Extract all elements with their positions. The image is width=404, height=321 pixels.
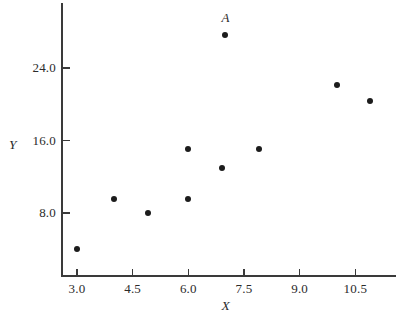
data-point — [145, 210, 151, 216]
x-tick-label: 3.0 — [54, 281, 100, 297]
x-tick-label: 9.0 — [277, 281, 323, 297]
data-point — [219, 165, 225, 171]
y-tick-mark — [63, 140, 70, 141]
x-axis-line — [61, 275, 396, 277]
y-tick-mark — [63, 212, 70, 213]
data-point — [256, 146, 262, 152]
y-axis-title: Y — [9, 137, 17, 153]
data-point — [111, 196, 117, 202]
x-axis-title-text: X — [221, 298, 229, 313]
point-annotation-label: A — [221, 10, 229, 26]
data-point — [185, 196, 191, 202]
x-axis-title: X — [0, 298, 404, 314]
y-tick-label: 16.0 — [12, 133, 56, 149]
x-tick-label: 6.0 — [165, 281, 211, 297]
x-tick-label: 7.5 — [221, 281, 267, 297]
data-point — [222, 32, 228, 38]
data-point — [185, 146, 191, 152]
y-tick-label: 8.0 — [12, 205, 56, 221]
x-tick-mark — [132, 269, 133, 276]
data-point — [367, 98, 373, 104]
x-tick-mark — [355, 269, 356, 276]
x-tick-label: 10.5 — [332, 281, 378, 297]
x-tick-mark — [76, 269, 77, 276]
x-tick-mark — [243, 269, 244, 276]
x-tick-mark — [299, 269, 300, 276]
scatter-plot-figure: 8.016.024.0 3.04.56.07.59.010.5 Y X A — [0, 0, 404, 321]
x-tick-label: 4.5 — [110, 281, 156, 297]
y-tick-mark — [63, 67, 70, 68]
x-tick-mark — [188, 269, 189, 276]
data-point — [74, 246, 80, 252]
data-point — [334, 82, 340, 88]
y-tick-label: 24.0 — [12, 60, 56, 76]
